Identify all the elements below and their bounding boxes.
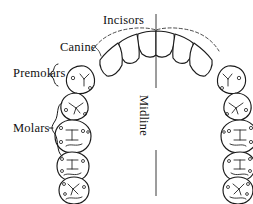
label-premolars: Premolars xyxy=(13,67,65,80)
tooth-molar-left-3 xyxy=(59,177,89,204)
tooth-canine-right xyxy=(190,43,212,76)
premolar-teeth-left xyxy=(61,66,95,120)
tooth-premolar-right-2 xyxy=(224,93,251,120)
label-molars: Molars xyxy=(13,122,50,135)
tooth-premolar-left-2 xyxy=(61,93,88,120)
tooth-molar-left-1 xyxy=(55,120,91,153)
arch-drawing xyxy=(0,0,253,204)
tooth-molar-right-1 xyxy=(221,120,253,153)
label-incisors: Incisors xyxy=(103,14,144,27)
label-midline: Midline xyxy=(138,95,151,136)
molar-teeth-right xyxy=(221,120,253,204)
tooth-molar-right-3 xyxy=(223,177,253,204)
tooth-premolar-left-1 xyxy=(66,66,94,94)
tooth-incisor-left-central xyxy=(138,31,156,57)
tooth-premolar-right-1 xyxy=(217,66,245,94)
label-canine: Canine xyxy=(60,41,97,54)
tooth-incisor-right-central xyxy=(156,31,174,57)
molar-teeth-left xyxy=(55,120,91,204)
tooth-canine-left xyxy=(100,43,122,76)
dental-arch-diagram: Incisors Canine Premolars Molars Midline xyxy=(0,0,253,204)
premolar-teeth-right xyxy=(217,66,251,120)
